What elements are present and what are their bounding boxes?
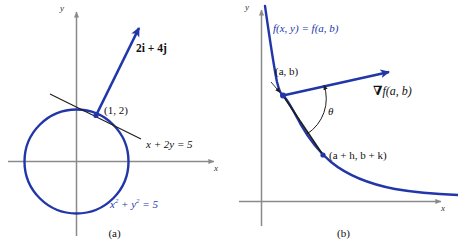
panel-a-gradient-vector xyxy=(96,28,139,116)
panel-b-gradient-label: ∇f(a, b) xyxy=(373,85,412,98)
panel-b-theta-arc xyxy=(307,85,326,134)
panel-b-point-ahbk-dot xyxy=(320,152,325,157)
panel-a-point-dot xyxy=(93,113,98,118)
panel-a-y-axis-label: y xyxy=(60,4,64,13)
panel-b-x-axis-label: x xyxy=(441,204,445,213)
panel-b-theta-label: θ xyxy=(328,106,333,117)
figure-root: y x 2i + 4j (1, 2) x + 2y = 5 x2 + y2 = … xyxy=(0,0,458,245)
panel-b-point-label: (a, b) xyxy=(275,66,298,77)
panel-b-y-axis-label: y xyxy=(245,3,249,12)
panel-b-graphics xyxy=(229,0,458,245)
panel-a-x-axis-label: x xyxy=(214,164,218,173)
gradient-label-text: f(a, b) xyxy=(382,84,411,98)
panel-a-point-label: (1, 2) xyxy=(104,105,128,116)
panel-b-level-curve xyxy=(265,6,458,195)
panel-a: y x 2i + 4j (1, 2) x + 2y = 5 x2 + y2 = … xyxy=(0,0,229,245)
circle-label-plus-y: + y xyxy=(118,198,136,210)
panel-a-circle-label: x2 + y2 = 5 xyxy=(110,199,158,210)
panel-a-vector-label: 2i + 4j xyxy=(136,43,167,55)
panel-b-point-ab-dot xyxy=(280,93,286,99)
panel-b: y x f(x, y) = f(a, b) (a, b) ∇f(a, b) θ … xyxy=(229,0,458,245)
panel-b-second-point-label: (a + h, b + k) xyxy=(329,150,387,161)
panel-a-tangent-label: x + 2y = 5 xyxy=(146,139,193,150)
panel-a-caption: (a) xyxy=(0,228,229,239)
panel-b-caption: (b) xyxy=(229,228,458,239)
circle-label-equals: = 5 xyxy=(140,198,158,210)
panel-b-level-curve-label: f(x, y) = f(a, b) xyxy=(273,23,338,34)
